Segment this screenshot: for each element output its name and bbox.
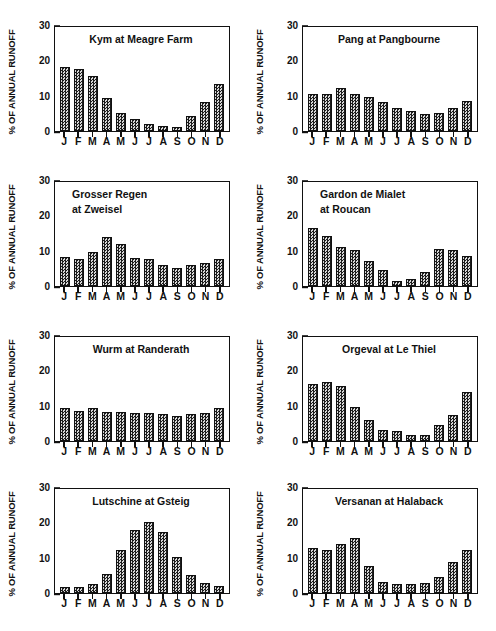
panel-title: Orgeval at Le Thiel [248, 342, 496, 357]
x-tick-label: M [364, 136, 374, 148]
x-tick-label: A [102, 598, 112, 610]
x-tick-label: A [158, 446, 168, 458]
x-tick-label: D [463, 598, 473, 610]
x-axis-labels: JFMAMJJASOND [302, 291, 478, 303]
x-tick-label: J [130, 291, 140, 303]
x-axis-labels: JFMAMJJASOND [54, 598, 230, 610]
x-tick-label: J [378, 446, 388, 458]
bar [214, 586, 224, 593]
x-tick-label: F [321, 291, 331, 303]
bar [322, 236, 332, 286]
bar [102, 412, 112, 441]
x-tick-label: D [463, 291, 473, 303]
x-tick-label: O [434, 598, 444, 610]
bar [448, 562, 458, 593]
bar [102, 237, 112, 286]
panel-grid: % OF ANNUAL RUNOFF0102030Kym at Meagre F… [0, 12, 496, 631]
bar [350, 94, 360, 131]
bar [336, 247, 346, 286]
bar [130, 530, 140, 593]
y-tick-label: 30 [274, 483, 298, 493]
x-tick-label: J [307, 136, 317, 148]
bar [116, 550, 126, 593]
chart-panel: % OF ANNUAL RUNOFF0102030Orgeval at Le T… [248, 322, 496, 474]
x-tick-label: S [172, 446, 182, 458]
x-tick-label: A [406, 598, 416, 610]
bar [462, 550, 472, 593]
x-tick-label: M [87, 446, 97, 458]
x-tick-label: F [73, 598, 83, 610]
x-tick-label: J [130, 598, 140, 610]
x-tick-label: J [307, 291, 317, 303]
bar [420, 114, 430, 131]
y-tick-label: 30 [274, 176, 298, 186]
x-tick-label: N [201, 598, 211, 610]
y-tick-label: 10 [274, 402, 298, 412]
y-tick-label: 20 [26, 366, 50, 376]
bar [102, 574, 112, 593]
y-tick-label: 10 [26, 554, 50, 564]
x-axis-labels: JFMAMJJASOND [302, 446, 478, 458]
bar [88, 584, 98, 593]
y-tick-label: 10 [274, 554, 298, 564]
x-tick-label: M [87, 291, 97, 303]
x-tick-label: A [350, 291, 360, 303]
x-tick-label: N [201, 136, 211, 148]
bar [60, 408, 70, 441]
bar [130, 258, 140, 286]
bar [364, 566, 374, 593]
bar [200, 102, 210, 131]
y-tick-label: 10 [26, 92, 50, 102]
x-tick-label: J [144, 136, 154, 148]
bar [406, 435, 416, 441]
bar [214, 259, 224, 286]
chart-panel: % OF ANNUAL RUNOFF0102030Versanan at Hal… [248, 474, 496, 631]
bar [172, 127, 182, 131]
y-tick-label: 0 [274, 589, 298, 599]
x-tick-label: O [186, 291, 196, 303]
bar [364, 420, 374, 441]
x-tick-label: S [172, 291, 182, 303]
bar [420, 583, 430, 593]
x-tick-label: D [463, 446, 473, 458]
bar [308, 384, 318, 441]
x-tick-label: M [364, 598, 374, 610]
y-tick-label: 30 [274, 21, 298, 31]
x-tick-label: J [144, 446, 154, 458]
bar [308, 94, 318, 131]
bar [406, 584, 416, 593]
bar [322, 94, 332, 131]
x-tick-label: N [449, 446, 459, 458]
bar [60, 587, 70, 593]
panel-title: Grosser Regen at Zweisel [72, 187, 147, 217]
x-tick-label: A [350, 136, 360, 148]
x-tick-label: D [215, 598, 225, 610]
x-tick-label: S [172, 598, 182, 610]
x-tick-label: J [392, 598, 402, 610]
x-tick-label: O [434, 446, 444, 458]
bar [60, 257, 70, 286]
bar [434, 113, 444, 131]
bar [158, 126, 168, 131]
bar [74, 69, 84, 131]
bar [172, 557, 182, 593]
bar [462, 256, 472, 286]
x-tick-label: D [215, 446, 225, 458]
bar [420, 435, 430, 441]
panel-title: Versanan at Halaback [248, 494, 496, 509]
bar [462, 392, 472, 441]
x-tick-label: J [378, 598, 388, 610]
panel-title: Kym at Meagre Farm [0, 32, 248, 47]
x-axis-labels: JFMAMJJASOND [302, 598, 478, 610]
x-tick-label: J [59, 446, 69, 458]
bar [130, 119, 140, 131]
bar [406, 279, 416, 286]
x-tick-label: M [335, 291, 345, 303]
y-axis-title: % OF ANNUAL RUNOFF [6, 173, 20, 301]
bar [350, 538, 360, 593]
x-tick-label: N [449, 136, 459, 148]
x-tick-label: M [87, 136, 97, 148]
chart-panel: % OF ANNUAL RUNOFF0102030Lutschine at Gs… [0, 474, 248, 631]
x-tick-label: J [59, 291, 69, 303]
x-tick-label: O [186, 136, 196, 148]
